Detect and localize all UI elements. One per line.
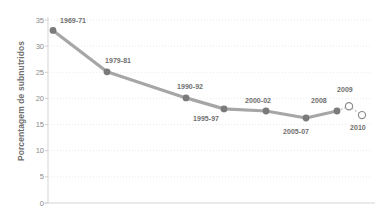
plot-area	[0, 0, 385, 217]
point-label-2010: 2010	[350, 124, 366, 131]
series-line-observed	[53, 30, 337, 118]
point-label-1979-81: 1979-81	[105, 57, 131, 64]
point-label-2009: 2009	[337, 86, 353, 93]
series-markers-observed	[50, 27, 341, 121]
point-label-1969-71: 1969-71	[60, 17, 86, 24]
point-label-2008: 2008	[311, 97, 327, 104]
point-label-2005-07: 2005-07	[283, 128, 309, 135]
point-label-2000-02: 2000-02	[245, 97, 271, 104]
point-label-1990-92: 1990-92	[177, 83, 203, 90]
chart-container: Porcentagem de subnutridos 35 30 25 20 1…	[0, 0, 385, 217]
point-label-1995-97: 1995-97	[193, 115, 219, 122]
